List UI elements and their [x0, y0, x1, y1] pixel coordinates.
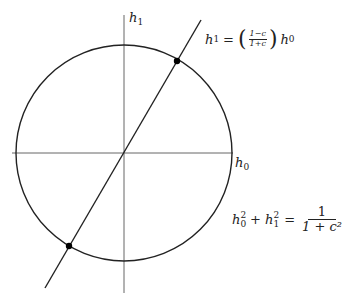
circle-equation: h20 + h21 = 1 1 + c²	[232, 205, 344, 235]
h1-axis-label: h1	[129, 10, 143, 27]
h0-axis-label: h0	[235, 155, 249, 172]
line-equation: h1 = ( 1−c 1+c ) h0	[205, 28, 295, 50]
intersection-point-upper	[174, 58, 180, 64]
intersection-point-lower	[66, 243, 72, 249]
